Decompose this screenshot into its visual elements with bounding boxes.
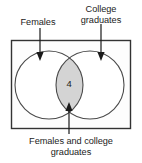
college-graduates-label-line2: graduates [81, 15, 121, 25]
college-graduates-set-label: Collegegraduates [64, 4, 138, 25]
intersection-set-label: Females and collegegraduates [3, 136, 139, 157]
females-set-label: Females [7, 17, 69, 28]
intersection-count-label: 4 [55, 78, 83, 89]
intersection-label-line1: Females and college [29, 136, 113, 146]
college-graduates-label-line1: College [86, 4, 117, 14]
intersection-label-line2: graduates [51, 147, 91, 157]
venn-diagram-figure: 4 Females Collegegraduates Females and c… [0, 0, 142, 163]
